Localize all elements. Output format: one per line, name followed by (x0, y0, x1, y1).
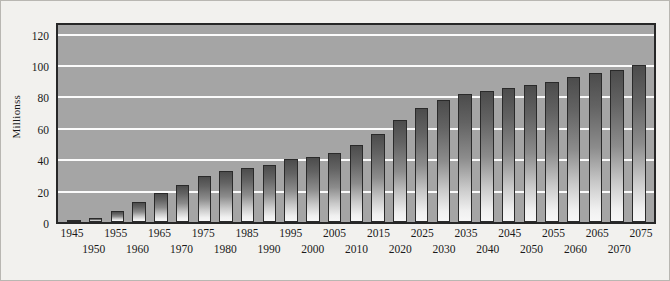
x-axis-tick-label: 1990 (257, 243, 280, 255)
x-axis-tick-label: 2020 (389, 243, 412, 255)
x-axis-tick-label: 2040 (476, 243, 499, 255)
bar-slot (128, 25, 150, 222)
bar-slot (193, 25, 215, 222)
bar-slot (454, 25, 476, 222)
x-axis-tick-label: 2070 (608, 243, 631, 255)
bar[interactable] (524, 85, 537, 222)
x-axis-tick-label: 2045 (498, 227, 521, 239)
bar[interactable] (284, 159, 297, 222)
bar-slot (63, 25, 85, 222)
bar-slot (628, 25, 650, 222)
bar-slot (324, 25, 346, 222)
plot-inner (58, 25, 654, 222)
bar[interactable] (67, 220, 80, 222)
x-axis-tick-label: 2060 (564, 243, 587, 255)
x-axis-tick-label: 1970 (170, 243, 193, 255)
bar-slot (389, 25, 411, 222)
x-axis-tick-label: 2035 (454, 227, 477, 239)
y-axis-tick-label: 20 (38, 187, 50, 199)
x-axis-tick-label: 2065 (586, 227, 609, 239)
x-axis-tick-label: 1975 (192, 227, 215, 239)
y-axis-tick-label: 120 (32, 30, 49, 42)
x-axis-tick-label: 2005 (323, 227, 346, 239)
y-axis-tick-label: 60 (38, 124, 50, 136)
y-axis-tick-label: 80 (38, 92, 50, 104)
bar-slot (498, 25, 520, 222)
bar-slot (367, 25, 389, 222)
bar[interactable] (632, 65, 645, 222)
bar-slot (411, 25, 433, 222)
bar[interactable] (393, 120, 406, 222)
bar[interactable] (328, 153, 341, 222)
bar-slot (476, 25, 498, 222)
x-axis-tick-label: 1945 (60, 227, 83, 239)
chart-figure: Millionss 020406080100120 19451950195519… (0, 0, 670, 281)
y-axis-title-text: Millionss (10, 95, 22, 138)
bar[interactable] (610, 70, 623, 222)
x-axis-tick-label: 1985 (236, 227, 259, 239)
bar-series (58, 25, 654, 222)
bar-slot (585, 25, 607, 222)
bar[interactable] (154, 193, 167, 222)
bar[interactable] (176, 185, 189, 222)
bar[interactable] (567, 77, 580, 222)
bar[interactable] (198, 176, 211, 222)
bar[interactable] (350, 145, 363, 222)
bar[interactable] (241, 168, 254, 222)
bar-slot (302, 25, 324, 222)
bar-slot (280, 25, 302, 222)
bar[interactable] (89, 218, 102, 222)
x-axis-tick-label: 1955 (104, 227, 127, 239)
x-axis-tick-label: 1965 (148, 227, 171, 239)
y-axis-tick-label: 0 (43, 218, 49, 230)
bar[interactable] (132, 202, 145, 222)
bar[interactable] (371, 134, 384, 222)
bar-slot (85, 25, 107, 222)
y-axis-tick-label: 40 (38, 155, 50, 167)
x-axis-tick-label: 2000 (301, 243, 324, 255)
bar-slot (346, 25, 368, 222)
x-axis-tick-label: 2025 (411, 227, 434, 239)
bar-slot (150, 25, 172, 222)
bar[interactable] (545, 82, 558, 222)
x-axis-tick-label: 2010 (345, 243, 368, 255)
bar-slot (606, 25, 628, 222)
x-axis-tick-label: 2055 (542, 227, 565, 239)
y-axis-tick-label: 100 (32, 61, 49, 73)
x-axis-tick-label: 1980 (214, 243, 237, 255)
bar-slot (259, 25, 281, 222)
bar[interactable] (589, 73, 602, 222)
x-axis-tick-label: 1960 (126, 243, 149, 255)
bar[interactable] (263, 165, 276, 222)
x-axis-tick-label: 2050 (520, 243, 543, 255)
bar-slot (563, 25, 585, 222)
bar[interactable] (480, 91, 493, 222)
bar[interactable] (415, 108, 428, 222)
y-axis-tick-labels: 020406080100120 (23, 23, 53, 224)
bar-slot (106, 25, 128, 222)
bar-slot (541, 25, 563, 222)
bar[interactable] (111, 211, 124, 222)
bar[interactable] (502, 88, 515, 222)
bar[interactable] (437, 100, 450, 222)
x-axis-tick-label: 2075 (630, 227, 653, 239)
x-axis-tick-labels: 1945195019551960196519701975198019851990… (56, 224, 656, 264)
bar-slot (432, 25, 454, 222)
x-axis-tick-label: 1995 (279, 227, 302, 239)
bar[interactable] (458, 94, 471, 222)
x-axis-tick-label: 2030 (433, 243, 456, 255)
plot-area (56, 23, 656, 224)
bar-slot (172, 25, 194, 222)
bar[interactable] (219, 171, 232, 222)
bar[interactable] (306, 157, 319, 222)
bar-slot (215, 25, 237, 222)
bar-slot (237, 25, 259, 222)
x-axis-tick-label: 2015 (367, 227, 390, 239)
x-axis-tick-label: 1950 (82, 243, 105, 255)
bar-slot (519, 25, 541, 222)
